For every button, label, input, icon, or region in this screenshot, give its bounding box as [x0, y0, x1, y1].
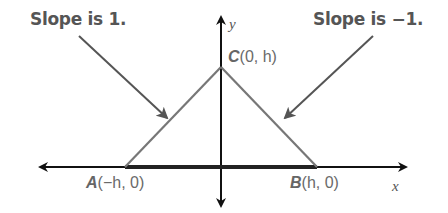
vertex-b-name: B	[290, 174, 302, 191]
triangle-side-ac	[125, 67, 221, 167]
x-axis-label: x	[392, 178, 399, 195]
y-axis-label: y	[229, 16, 236, 33]
vertex-b-label: B(h, 0)	[290, 174, 339, 192]
vertex-c-coords: (0, h)	[240, 48, 277, 65]
callout-slope-neg-1: Slope is −1.	[313, 9, 423, 29]
pointer-arrow-right	[285, 36, 373, 118]
vertex-b-coords: (h, 0)	[302, 174, 339, 191]
triangle-side-bc	[221, 67, 317, 167]
vertex-a-coords: (−h, 0)	[98, 174, 145, 191]
vertex-a-label: A(−h, 0)	[86, 174, 144, 192]
vertex-a-name: A	[86, 174, 98, 191]
pointer-arrow-left	[79, 36, 167, 118]
diagram-canvas: Slope is 1. Slope is −1. y x C(0, h) A(−…	[0, 0, 448, 213]
coordinate-plane	[0, 0, 448, 213]
vertex-c-label: C(0, h)	[228, 48, 277, 66]
callout-slope-1: Slope is 1.	[30, 9, 126, 29]
vertex-c-name: C	[228, 48, 240, 65]
